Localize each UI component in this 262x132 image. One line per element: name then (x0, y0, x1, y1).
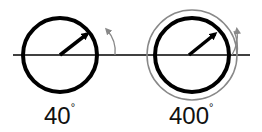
angle-label-40: 40° (44, 104, 75, 128)
arrow-icon (189, 34, 215, 55)
angle-value: 400 (169, 102, 209, 129)
angle-value: 40 (44, 102, 71, 129)
angle-label-400: 400° (169, 104, 213, 128)
arrow-icon (60, 34, 87, 55)
degree-symbol: ° (209, 101, 213, 113)
rotation-diagram (0, 0, 262, 132)
rotation-arc-icon (107, 30, 115, 55)
diagram-400 (131, 10, 250, 100)
diagram-40 (13, 18, 131, 92)
degree-symbol: ° (71, 101, 75, 113)
